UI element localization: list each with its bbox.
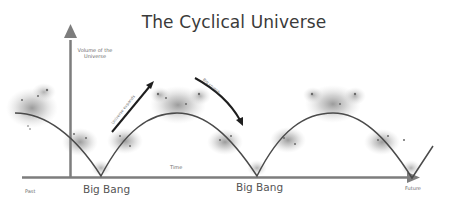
big-bang-label-2: Big Bang [236,181,283,193]
past-label: Past [25,188,35,194]
galaxy-clusters [6,83,421,176]
y-axis-arrowhead-icon [64,24,77,38]
big-bang-label-1: Big Bang [83,183,130,195]
y-axis-label: Volume of the Universe [76,47,114,59]
cyclical-universe-diagram [0,0,449,213]
expand-arrowhead-icon [146,81,154,89]
x-axis-label: Time [170,164,182,170]
future-label: Future [405,185,421,191]
y-axis-label-line2: Universe [76,53,114,59]
